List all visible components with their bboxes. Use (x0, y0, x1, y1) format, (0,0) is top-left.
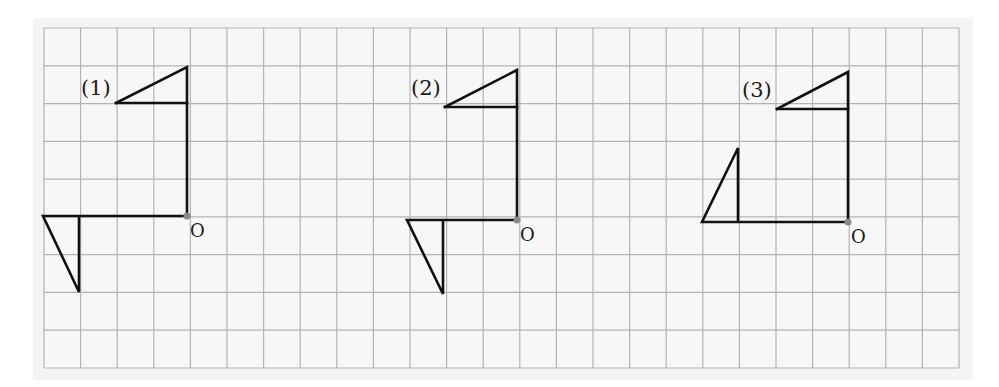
origin-point (845, 219, 852, 226)
diagram-canvas: (1) (2) (3) O O O (0, 0, 999, 387)
grid-diagram (0, 0, 999, 387)
origin-point (184, 213, 191, 220)
figure-label-2: (2) (411, 78, 441, 99)
figure-label-3: (3) (742, 80, 772, 101)
origin-label-figure-3: O (851, 228, 866, 246)
origin-label-figure-2: O (520, 226, 535, 244)
figure-label-1: (1) (81, 78, 111, 99)
origin-point (514, 217, 521, 224)
origin-label-figure-1: O (190, 222, 205, 240)
